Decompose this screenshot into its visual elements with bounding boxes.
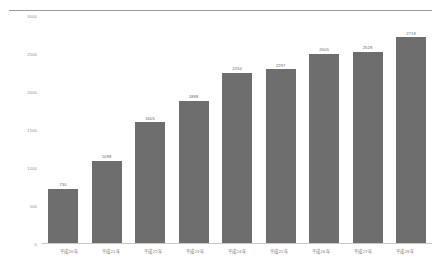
y-axis-tick-label: 2000 xyxy=(27,90,37,95)
bar-column: 1888 xyxy=(179,16,209,244)
x-axis-tick-label: 平成25年 xyxy=(270,248,287,254)
bar-column: 1098 xyxy=(92,16,122,244)
bar-value-label: 2505 xyxy=(319,47,329,52)
bar-column: 730 xyxy=(48,16,78,244)
bar xyxy=(309,54,339,244)
x-axis-tick-label: 平成20年 xyxy=(60,248,77,254)
y-axis-tick-label: 1500 xyxy=(27,128,37,133)
x-axis-tick-label: 平成21年 xyxy=(102,248,119,254)
bar xyxy=(396,37,426,244)
bar-column: 2528 xyxy=(353,16,383,244)
plot-area: 300025002000150010005000 730109816051888… xyxy=(42,16,432,244)
bar xyxy=(92,161,122,244)
x-axis-baseline xyxy=(42,243,432,244)
bar xyxy=(135,122,165,244)
bar-value-label: 2718 xyxy=(406,31,416,36)
bar xyxy=(48,189,78,244)
y-axis-tick-label: 500 xyxy=(30,204,37,209)
bar-value-label: 2297 xyxy=(276,63,286,68)
bar-column: 2505 xyxy=(309,16,339,244)
bar-value-label: 1098 xyxy=(102,154,112,159)
y-axis-tick-label: 3000 xyxy=(27,14,37,19)
bar-value-label: 2254 xyxy=(232,66,242,71)
bar-column: 2254 xyxy=(222,16,252,244)
bar-column: 2718 xyxy=(396,16,426,244)
x-axis-tick-label: 平成24年 xyxy=(228,248,245,254)
bar xyxy=(353,52,383,244)
x-axis-tick-label: 平成23年 xyxy=(186,248,203,254)
y-axis-tick-label: 1000 xyxy=(27,166,37,171)
bar-value-label: 1888 xyxy=(189,94,199,99)
bar-value-label: 2528 xyxy=(363,45,373,50)
x-axis-tick-label: 平成26年 xyxy=(312,248,329,254)
bar xyxy=(179,101,209,244)
bar-column: 1605 xyxy=(135,16,165,244)
bar xyxy=(266,69,296,244)
x-axis-tick-label: 平成27年 xyxy=(354,248,371,254)
bar-value-label: 730 xyxy=(59,182,66,187)
bar-column: 2297 xyxy=(266,16,296,244)
bar-chart: 300025002000150010005000 730109816051888… xyxy=(0,0,441,278)
y-axis-tick-label: 2500 xyxy=(27,52,37,57)
x-axis-tick-label: 平成22年 xyxy=(144,248,161,254)
x-axis-tick-label: 平成28年 xyxy=(396,248,413,254)
bar xyxy=(222,73,252,244)
bar-series: 73010981605188822542297250525282718 xyxy=(42,16,432,244)
top-divider-rule xyxy=(9,10,432,11)
y-axis-tick-label: 0 xyxy=(35,242,37,247)
bar-value-label: 1605 xyxy=(145,116,155,121)
